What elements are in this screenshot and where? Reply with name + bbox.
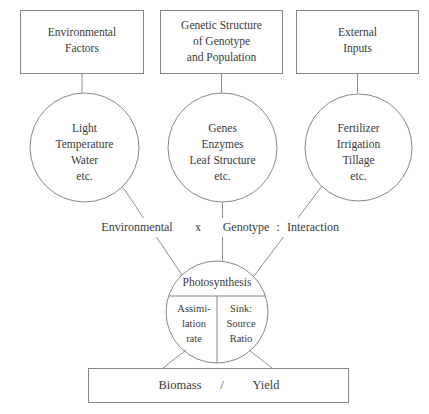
- box-label-line: Environmental: [48, 26, 116, 38]
- circle-label-line: etc.: [214, 170, 230, 182]
- interaction-equation: Environmental x Genotype : Interaction: [78, 218, 346, 237]
- connector-photosynthesis-to-output-right: [249, 350, 272, 368]
- circle-label-line: Irrigation: [337, 138, 381, 151]
- circle-label-line: Fertilizer: [337, 122, 379, 134]
- output-box-outline: [89, 369, 349, 403]
- sink-source-ratio-line: Sink:: [230, 303, 252, 314]
- circle-photosynthesis[interactable]: Photosynthesis Assimi- lation rate Sink:…: [166, 261, 268, 363]
- assimilation-rate-line: Assimi-: [177, 303, 211, 314]
- circle-environment[interactable]: Light Temperature Water etc.: [30, 93, 139, 202]
- output-label-yield: Yield: [252, 378, 280, 392]
- equation-term-genotype: Genotype: [223, 220, 270, 234]
- box-label-line: of Genotype: [193, 35, 250, 48]
- box-label-line: Inputs: [343, 42, 372, 55]
- equation-term-interaction: Interaction: [287, 220, 339, 234]
- circle-genotype[interactable]: Genes Enzymes Leaf Structure etc.: [168, 93, 277, 202]
- circle-label-line: etc.: [76, 170, 92, 182]
- circle-inputs[interactable]: Fertilizer Irrigation Tillage etc.: [305, 94, 412, 201]
- assimilation-rate-line: lation: [182, 318, 207, 329]
- top-box-genetic-structure[interactable]: Genetic Structure of Genotype and Popula…: [161, 11, 283, 74]
- equation-term-environmental: Environmental: [101, 220, 173, 234]
- output-box-biomass-yield[interactable]: Biomass / Yield: [89, 369, 349, 403]
- circle-label-line: Temperature: [56, 138, 114, 151]
- equation-operator-times: x: [195, 220, 201, 234]
- flow-diagram: Environmental Factors Genetic Structure …: [0, 0, 429, 414]
- circle-label-line: Leaf Structure: [189, 154, 255, 166]
- box-label-line: and Population: [187, 51, 257, 64]
- connector-photosynthesis-to-output-left: [163, 350, 186, 368]
- top-box-environmental-factors[interactable]: Environmental Factors: [21, 11, 144, 74]
- circle-label-line: Genes: [208, 122, 237, 134]
- output-separator: /: [220, 378, 224, 392]
- sink-source-ratio-line: Source: [226, 318, 255, 329]
- output-label-biomass: Biomass: [158, 378, 201, 392]
- circle-label-line: Light: [72, 122, 98, 135]
- top-box-external-inputs[interactable]: External Inputs: [297, 11, 419, 74]
- box-label-line: Factors: [65, 42, 99, 54]
- box-label-line: Genetic Structure: [181, 19, 262, 31]
- sink-source-ratio-line: Ratio: [230, 333, 253, 344]
- assimilation-rate-line: rate: [186, 333, 202, 344]
- circle-label-line: Tillage: [342, 154, 374, 167]
- photosynthesis-title: Photosynthesis: [182, 276, 252, 289]
- equation-colon: :: [276, 220, 279, 234]
- circle-label-line: Water: [71, 154, 98, 166]
- circle-label-line: Enzymes: [201, 138, 244, 151]
- circle-label-line: etc.: [350, 170, 366, 182]
- box-label-line: External: [338, 26, 377, 38]
- diagram-canvas: Environmental Factors Genetic Structure …: [0, 0, 429, 414]
